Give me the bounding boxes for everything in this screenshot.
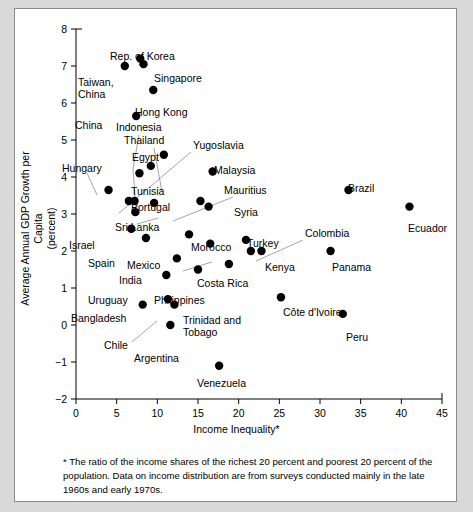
point-label-mauritius: Mauritius (224, 184, 267, 196)
x-tick-label: 35 (355, 407, 367, 419)
data-point (185, 230, 193, 238)
point-label-india: India (119, 274, 142, 286)
point-label-hungary: Hungary (62, 162, 102, 174)
data-point (104, 186, 112, 194)
leader-line (87, 173, 97, 195)
point-label-panama: Panama (332, 261, 371, 273)
data-point (204, 202, 212, 210)
point-label-trinidad-2: Tobago (183, 326, 217, 338)
point-label-venezuela: Venezuela (197, 377, 246, 389)
x-tick-label: 5 (114, 407, 120, 419)
data-point (166, 321, 174, 329)
data-point (196, 197, 204, 205)
y-tick-label: 0 (15, 319, 67, 331)
y-tick-label: 7 (15, 60, 67, 72)
point-label-argentina: Argentina (134, 352, 179, 364)
y-tick-label: −2 (15, 393, 67, 405)
point-label-indonesia: Indonesia (116, 121, 162, 133)
point-label-egypt: Egypt (132, 151, 159, 163)
x-tick-label: 45 (436, 407, 448, 419)
point-label-israel: Israel (69, 239, 95, 251)
y-tick-label: 6 (15, 97, 67, 109)
point-label-yugoslavia: Yugoslavia (193, 139, 244, 151)
data-point (215, 362, 223, 370)
point-label-trinidad-1: Trinidad and (183, 314, 241, 326)
point-label-china: China (75, 119, 102, 131)
data-point (194, 265, 202, 273)
data-point (149, 86, 157, 94)
y-axis-label-line2: (percent) (45, 139, 58, 319)
point-label-singapore: Singapore (154, 72, 202, 84)
point-label-mexico: Mexico (127, 259, 160, 271)
figure-panel: 051015202530354045−2−1012345678 Rep. of … (14, 8, 457, 502)
scatter-plot: 051015202530354045−2−1012345678 Rep. of … (15, 9, 457, 449)
point-label-thailand: Thailand (124, 134, 164, 146)
point-label-portugal: Portugal (131, 201, 170, 213)
x-tick-label: 15 (192, 407, 204, 419)
data-point (142, 234, 150, 242)
point-label-uruguay: Uruguay (88, 294, 128, 306)
point-label-turkey: Turkey (247, 237, 279, 249)
leader-line (132, 321, 157, 342)
x-tick-label: 20 (233, 407, 245, 419)
point-label-morocco: Morocco (191, 241, 231, 253)
data-point (225, 260, 233, 268)
point-label-taiwan-china-2: China (78, 88, 105, 100)
point-label-ecuador: Ecuador (408, 222, 447, 234)
data-point (162, 271, 170, 279)
data-point (135, 169, 143, 177)
data-point (405, 202, 413, 210)
point-label-colombia: Colombia (305, 227, 349, 239)
data-point (277, 293, 285, 301)
point-label-rep-of-korea: Rep. of Korea (110, 50, 175, 62)
y-axis-label: Average Annual GDP Growth per Capita (pe… (19, 139, 58, 319)
y-tick-label: −1 (15, 356, 67, 368)
point-label-brazil: Brazil (348, 182, 374, 194)
point-label-philippines: Philippines (154, 294, 205, 306)
x-axis-label: Income Inequality* (15, 423, 457, 435)
x-tick-label: 10 (151, 407, 163, 419)
x-tick-label: 0 (73, 407, 79, 419)
point-label-kenya: Kenya (265, 261, 295, 273)
y-tick-label: 8 (15, 23, 67, 35)
point-label-malaysia: Malaysia (214, 164, 255, 176)
point-label-peru: Peru (346, 331, 368, 343)
point-label-spain: Spain (88, 257, 115, 269)
data-point (138, 300, 146, 308)
point-label-tunisia: Tunisia (131, 185, 164, 197)
footnote-text: * The ratio of the income shares of the … (63, 455, 438, 497)
data-point (160, 151, 168, 159)
data-point (121, 62, 129, 70)
point-label-costa-rica: Costa Rica (197, 277, 248, 289)
point-label-sri-lanka: Sri Lanka (115, 221, 159, 233)
x-tick-label: 30 (314, 407, 326, 419)
point-label-taiwan-china-1: Taiwan, (78, 76, 114, 88)
point-label-syria: Syria (234, 206, 258, 218)
y-axis-label-line1: Average Annual GDP Growth per Capita (19, 139, 45, 319)
data-point (173, 254, 181, 262)
point-label-hong-kong: Hong Kong (135, 106, 188, 118)
x-tick-label: 25 (273, 407, 285, 419)
point-label-chile: Chile (104, 339, 128, 351)
point-label-cote-divoire: Côte d'Ivoire (283, 306, 342, 318)
x-tick-label: 40 (395, 407, 407, 419)
data-point (326, 247, 334, 255)
point-label-bangladesh: Bangladesh (71, 312, 126, 324)
